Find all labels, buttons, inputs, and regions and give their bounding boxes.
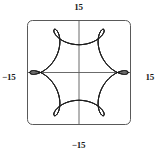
chart-figure: 15 −15 −15 15 [0,0,157,154]
axis-label-right: 15 [145,0,154,154]
axis-label-top: 15 [0,3,157,12]
plot-area [0,0,157,154]
axis-label-bottom: −15 [0,141,157,150]
axis-label-left: −15 [2,0,16,154]
